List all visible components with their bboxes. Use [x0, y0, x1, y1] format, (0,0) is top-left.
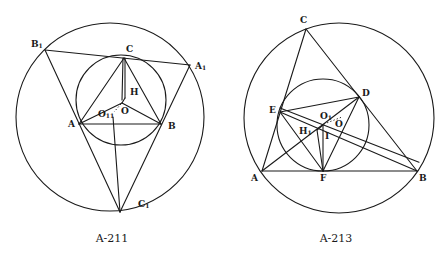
label-c1: C1 — [138, 200, 149, 209]
label-d: D — [362, 89, 370, 98]
figure-a-211: B1 A1 C1 C A B H O O11 A-211 — [0, 0, 224, 254]
label-o11: O11 — [98, 110, 114, 119]
label-h: H — [130, 88, 139, 97]
segment-e-d — [280, 97, 359, 112]
inner-circle — [76, 55, 166, 145]
label-f: F — [320, 174, 326, 183]
segment-b1-c1 — [45, 50, 120, 212]
label-b: B — [168, 122, 176, 131]
label-i: I — [325, 132, 329, 141]
label-o1: O1 — [320, 112, 332, 121]
label-b1: B1 — [31, 40, 43, 49]
label-a1: A1 — [195, 62, 206, 71]
segment-b1-a1 — [45, 50, 190, 65]
segment-o11-c1 — [113, 117, 120, 212]
label-b: B — [419, 174, 427, 183]
figure-a-213: C A B D E F O1 O H1 I A-213 — [224, 0, 448, 254]
label-o: O — [121, 107, 129, 116]
label-c: C — [126, 45, 133, 54]
label-a: A — [68, 120, 75, 129]
outer-circle — [244, 23, 434, 213]
label-c: C — [300, 16, 307, 25]
label-o: O — [335, 120, 343, 129]
label-a: A — [251, 174, 258, 183]
segment-c-h-1 — [122, 58, 123, 100]
label-e: E — [269, 106, 276, 115]
label-h1: H1 — [299, 127, 312, 136]
figure-caption: A-213 — [224, 232, 448, 245]
figure-caption: A-211 — [0, 232, 224, 245]
